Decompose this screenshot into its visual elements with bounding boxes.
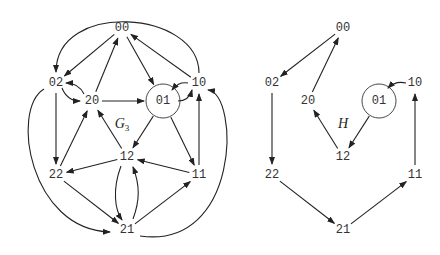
edge-h-21-11	[351, 182, 406, 224]
node-g3-02: 02	[49, 76, 63, 90]
node-h-21: 21	[336, 223, 350, 237]
edge-g3-01-12	[133, 116, 153, 148]
node-h-22: 22	[265, 168, 279, 182]
edge-g3-21-11	[135, 182, 190, 224]
edge-g3-21-12	[133, 167, 138, 219]
edge-h-01-12	[349, 116, 369, 148]
edges-layer	[28, 22, 415, 237]
edge-g3-00-01	[127, 37, 154, 85]
node-h-20: 20	[301, 94, 315, 108]
edge-h-12-20	[314, 110, 338, 148]
node-g3-22: 22	[49, 168, 63, 182]
node-g3-11: 11	[192, 168, 206, 182]
edge-g3-10-00	[131, 34, 191, 77]
edge-g3-22-21	[64, 181, 118, 223]
edge-g3-20-02	[66, 83, 84, 94]
node-g3-01: 01	[156, 94, 170, 108]
node-g3-20: 20	[85, 94, 99, 108]
node-h-02: 02	[265, 76, 279, 90]
edge-h-22-21	[280, 181, 334, 223]
node-g3-00: 00	[115, 21, 129, 35]
graph-diagram: 101112202122000201G3101112202122000201H	[0, 0, 440, 255]
edge-g3-02-20	[62, 88, 80, 101]
node-g3-21: 21	[120, 223, 134, 237]
edge-g3-12-22	[67, 159, 118, 172]
edge-h-20-00	[312, 38, 338, 92]
edge-g3-00-02	[64, 34, 114, 76]
edge-g3-22-20	[60, 111, 87, 166]
edge-g3-20-00	[96, 38, 118, 92]
node-g3-10: 10	[192, 76, 206, 90]
edge-h-00-02	[281, 34, 335, 76]
node-h-01: 01	[372, 94, 386, 108]
node-h-10: 10	[408, 76, 422, 90]
graph-label-g3: G3	[115, 116, 130, 133]
node-g3-12: 12	[120, 150, 134, 164]
graph-label-h: H	[337, 116, 349, 131]
node-h-12: 12	[336, 150, 350, 164]
nodes-layer: 101112202122000201G3101112202122000201H	[49, 21, 422, 237]
edge-g3-01-11	[171, 117, 194, 165]
edge-h-10-01	[388, 82, 406, 88]
edge-g3-11-12	[138, 160, 190, 173]
node-h-00: 00	[336, 21, 350, 35]
edge-g3-12-21	[115, 166, 122, 220]
node-h-11: 11	[408, 168, 422, 182]
